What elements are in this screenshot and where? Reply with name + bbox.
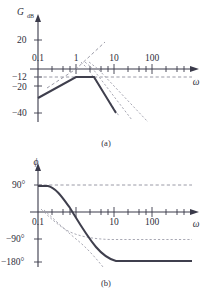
phase-pole-asymptote-2 bbox=[44, 210, 103, 267]
bode-plot-figure: G dB 20 −12 −20 −40 0.1 1 10 100 ω (a) bbox=[0, 0, 212, 290]
phase-plot: ϕ 90° −90° −180° 0.1 10 100 ω bbox=[0, 155, 212, 275]
magnitude-y-tick-neg20: −20 bbox=[12, 82, 27, 92]
phase-x-axis bbox=[30, 207, 199, 217]
caption-b: (b) bbox=[101, 278, 111, 288]
phase-x-tick-10: 10 bbox=[109, 217, 119, 227]
magnitude-x-tick-1: 1 bbox=[74, 53, 79, 63]
magnitude-y-tick-20: 20 bbox=[17, 35, 27, 45]
magnitude-x-tick-0-1: 0.1 bbox=[32, 53, 44, 63]
magnitude-falling-asymptote-2 bbox=[85, 62, 132, 120]
phase-x-axis-label: ω bbox=[193, 219, 200, 229]
phase-y-tick-neg90: −90° bbox=[6, 234, 25, 244]
phase-y-tick-90: 90° bbox=[12, 180, 26, 190]
magnitude-plot: G dB 20 −12 −20 −40 0.1 1 10 100 ω bbox=[0, 0, 212, 132]
phase-y-axis-label: ϕ bbox=[34, 157, 39, 167]
phase-x-tick-0-1: 0.1 bbox=[32, 217, 44, 227]
magnitude-y-axis bbox=[34, 14, 42, 122]
magnitude-x-axis bbox=[30, 64, 199, 74]
magnitude-y-axis-label-sub: dB bbox=[27, 13, 34, 19]
magnitude-resultant-curve bbox=[38, 77, 116, 113]
magnitude-x-axis-label: ω bbox=[193, 77, 200, 87]
magnitude-y-tick-neg12: −12 bbox=[12, 72, 27, 82]
magnitude-y-tick-neg40: −40 bbox=[12, 108, 27, 118]
magnitude-y-axis-label-main: G bbox=[17, 7, 24, 17]
magnitude-x-tick-10: 10 bbox=[109, 53, 119, 63]
magnitude-x-tick-100: 100 bbox=[145, 53, 160, 63]
phase-y-tick-neg180: −180° bbox=[1, 257, 25, 267]
caption-a: (a) bbox=[101, 138, 110, 148]
phase-x-tick-100: 100 bbox=[145, 217, 160, 227]
phase-y-axis bbox=[34, 163, 42, 267]
